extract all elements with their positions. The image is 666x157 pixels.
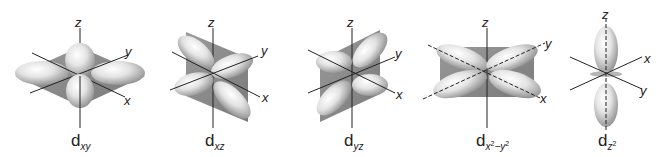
y-axis-label: y (125, 45, 132, 58)
z-axis-label: z (347, 16, 354, 29)
orbital-label: dxz (205, 132, 224, 152)
orbital-dz2: z x y dz2 (560, 0, 666, 157)
z-axis-label: z (75, 16, 82, 29)
orbital-dxy: z y x dxy (0, 0, 160, 157)
lobe (91, 61, 145, 85)
orbital-dxz: z y x dxz (150, 0, 300, 157)
x-axis-label: x (262, 91, 269, 104)
z-axis-label: z (208, 16, 215, 29)
z-axis-label: z (482, 16, 489, 29)
y-axis-label: y (395, 47, 402, 60)
orbital-label: dx2−y2 (476, 132, 509, 152)
lobe (352, 74, 388, 96)
orbital-dx2-y2: z y x dx2−y2 (420, 0, 570, 157)
orbital-label: dz2 (598, 132, 616, 152)
lobe (65, 43, 95, 77)
orbital-label: dyz (344, 132, 363, 152)
x-axis-label: x (124, 94, 131, 107)
z-axis-label: z (602, 8, 609, 21)
x-axis-label: x (540, 92, 547, 105)
y-axis-label: y (545, 37, 552, 50)
x-axis-label: x (396, 88, 403, 101)
orbital-dyz: z y x dyz (280, 0, 420, 157)
y-axis-label: y (640, 84, 647, 97)
x-axis-label: x (644, 52, 651, 65)
lobe (316, 51, 352, 73)
dxz-diagram (150, 0, 300, 157)
y-axis-label: y (261, 44, 268, 57)
orbital-label: dxy (71, 132, 90, 152)
